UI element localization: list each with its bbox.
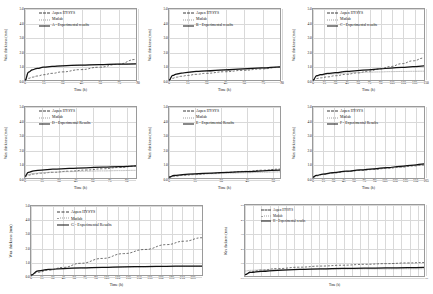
x-axis-label: Time (h): [312, 88, 425, 92]
series-line-dotted: [313, 165, 424, 178]
y-axis-tick-label: 0.0: [163, 80, 169, 84]
grid-line-horizontal: [169, 82, 280, 83]
x-axis-label: Time (h): [24, 88, 137, 92]
x-axis-tick-label: 15: [323, 80, 327, 85]
grid-line-horizontal: [25, 82, 136, 83]
legend-line-swatch-icon: [327, 12, 338, 15]
legend-item: Aspen HYSYS: [183, 109, 234, 114]
subplot-B: Wax thickness (mm)01530456075900.01.02.0…: [146, 2, 287, 97]
y-axis-tick-label: 0.0: [307, 178, 313, 182]
legend-item-label: Aspen HYSYS: [196, 109, 219, 114]
legend-item-label: Aspen HYSYS: [273, 208, 293, 212]
legend-item-label: Aspen HYSYS: [52, 11, 75, 16]
x-axis-tick-label: 60: [243, 80, 247, 85]
legend-item: Aspen HYSYS: [57, 209, 112, 214]
legend-item: B - Experimental results: [183, 23, 233, 28]
x-axis-tick-label: 45: [342, 178, 346, 183]
y-axis-tick-label: 0.0: [241, 277, 245, 280]
x-axis-tick-label: 60: [99, 80, 103, 85]
legend-line-swatch-icon: [183, 12, 194, 15]
x-axis-tick-label: 30: [332, 178, 336, 183]
legend-line-swatch-icon: [261, 209, 271, 212]
series-line-solid: [169, 170, 280, 177]
subplot-F: Wax thickness (mm)0153045607590105120135…: [290, 100, 431, 195]
legend-item-label: Aspen HYSYS: [340, 11, 363, 16]
x-axis-tick-label: 15: [193, 178, 197, 183]
legend-line-swatch-icon: [183, 110, 194, 113]
x-axis-tick-label: 120: [393, 178, 398, 183]
legend-line-swatch-icon: [183, 122, 194, 125]
y-axis-label: Wax thickness (mm): [6, 205, 15, 276]
x-axis-tick-label: 60: [272, 178, 276, 183]
legend-item-label: B - Experimental results: [196, 23, 233, 28]
series-line-solid: [313, 164, 424, 177]
legend-item-label: E - Experimental Results: [196, 121, 234, 126]
legend: Aspen HYSYSMatlabB - Experimental result…: [183, 11, 233, 30]
legend-item-label: H - Experimental results: [273, 219, 305, 223]
x-axis-tick-label: 90: [280, 80, 284, 85]
y-axis-label: Wax thickness (mm): [146, 106, 155, 179]
y-axis-label: Wax thickness (mm): [222, 204, 231, 277]
legend-line-swatch-icon: [39, 18, 50, 21]
grid-line-vertical: [282, 9, 283, 80]
grid-line-vertical: [426, 9, 427, 80]
x-axis-tick-label: 90: [125, 178, 129, 183]
x-axis-tick-label: 330: [424, 276, 428, 280]
subplot-A: Wax thickness (mm)01530456075900.01.02.0…: [2, 2, 143, 97]
x-axis-tick-label: 15: [40, 178, 44, 183]
y-axis-tick-label: 0.0: [163, 178, 169, 182]
x-axis-tick-label: 45: [224, 80, 228, 85]
legend-line-swatch-icon: [57, 223, 69, 226]
plot-area: 0153045607590105120135150165180195210225…: [30, 205, 203, 276]
x-axis-label: Time (h): [24, 186, 137, 190]
x-axis-tick-label: 60: [91, 178, 95, 183]
x-axis-tick-label: 90: [94, 275, 98, 280]
x-axis-tick-label: 105: [382, 178, 387, 183]
legend-item: Matlab: [39, 115, 91, 120]
series-line-dashed: [169, 67, 280, 80]
legend: Aspen HYSYSMatlabA - Experimental result…: [39, 11, 89, 30]
legend-line-swatch-icon: [57, 217, 69, 220]
y-axis-label: Wax thickness (mm): [2, 106, 11, 179]
y-axis-label: Wax thickness (mm): [146, 8, 155, 81]
legend-item: Matlab: [183, 115, 234, 120]
x-axis-tick-label: 15: [186, 80, 190, 85]
legend-item-label: Matlab: [52, 115, 63, 120]
x-axis-tick-label: 15: [40, 275, 44, 280]
legend-line-swatch-icon: [327, 24, 338, 27]
legend-item-label: Matlab: [196, 115, 207, 120]
y-axis-label: Wax thickness (mm): [290, 106, 299, 179]
legend-item-label: Aspen HYSYS: [52, 109, 75, 114]
legend-item: F - Experimental Results: [327, 121, 378, 126]
grid-line-vertical: [426, 107, 427, 178]
x-axis-tick-label: 60: [73, 275, 77, 280]
x-axis-tick-label: 75: [261, 80, 265, 85]
legend: Aspen HYSYSMatlabC - Experimental result…: [327, 11, 377, 30]
x-axis-tick-label: 135: [403, 178, 408, 183]
legend-item-label: Matlab: [340, 17, 351, 22]
legend-item-label: A - Experimental results: [52, 23, 89, 28]
series-line-solid: [25, 64, 136, 80]
legend-item-label: Aspen HYSYS: [71, 209, 95, 214]
legend-item: Matlab: [327, 115, 378, 120]
legend-line-swatch-icon: [327, 122, 338, 125]
x-axis-tick-label: 45: [62, 275, 66, 280]
x-axis-tick-label: 15: [322, 178, 326, 183]
grid-line-horizontal: [245, 278, 424, 279]
x-axis-label: Time (h): [244, 283, 425, 287]
x-axis-label: Time (h): [312, 186, 425, 190]
series-line-dashed: [313, 58, 424, 80]
grid-line-horizontal: [313, 82, 424, 83]
legend-line-swatch-icon: [39, 116, 50, 119]
series-line-dotted: [313, 71, 424, 80]
x-axis-tick-label: 75: [108, 178, 112, 183]
x-axis-tick-label: 30: [205, 80, 209, 85]
legend: Aspen HYSYSMatlabD - Experimental Result…: [39, 109, 91, 128]
x-axis-tick-label: 60: [352, 178, 356, 183]
legend-item: G - Experimental Results: [57, 222, 112, 227]
legend-item: Aspen HYSYS: [327, 109, 378, 114]
x-axis-tick-label: 135: [412, 80, 417, 85]
legend-item-label: Matlab: [340, 115, 351, 120]
multi-panel-wax-thickness-figure: Wax thickness (mm)01530456075900.01.02.0…: [0, 0, 433, 294]
x-axis-tick-label: 165: [147, 275, 152, 280]
